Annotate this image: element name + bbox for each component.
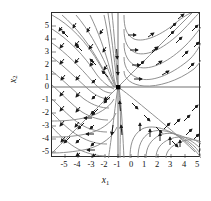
x-axis-label: x1 <box>0 175 211 186</box>
y-tick-label: -5 <box>29 147 49 155</box>
phase-portrait-figure: 5 4 3 2 1 0 -1 -2 -3 -4 -5 -5 -4 -3 -2 -… <box>0 0 211 201</box>
y-tick-label: 2 <box>29 60 49 68</box>
x-tick-label: 5 <box>188 160 206 169</box>
plot-area <box>51 12 200 157</box>
y-tick-label: -4 <box>29 134 49 142</box>
y-tick-label: 1 <box>29 73 49 81</box>
x-axis-label-subscript: 1 <box>106 179 109 186</box>
y-tick-label: 3 <box>29 47 49 55</box>
trajectories <box>52 13 201 158</box>
y-tick-label: -1 <box>29 95 49 103</box>
phase-portrait-svg <box>52 13 201 158</box>
y-axis-label: x2 <box>8 68 19 90</box>
y-tick-label: -2 <box>29 108 49 116</box>
x-axis-ticks: -5 -4 -3 -2 -1 0 1 2 3 4 5 <box>0 160 211 172</box>
equilibrium-point <box>116 85 120 89</box>
y-axis-label-base: x <box>8 79 18 83</box>
y-axis-label-subscript: 2 <box>11 76 18 79</box>
y-tick-label: 0 <box>29 82 49 90</box>
y-tick-label: 4 <box>29 34 49 42</box>
tick-marks <box>52 26 185 158</box>
y-tick-label: -3 <box>29 121 49 129</box>
y-tick-label: 5 <box>29 21 49 29</box>
